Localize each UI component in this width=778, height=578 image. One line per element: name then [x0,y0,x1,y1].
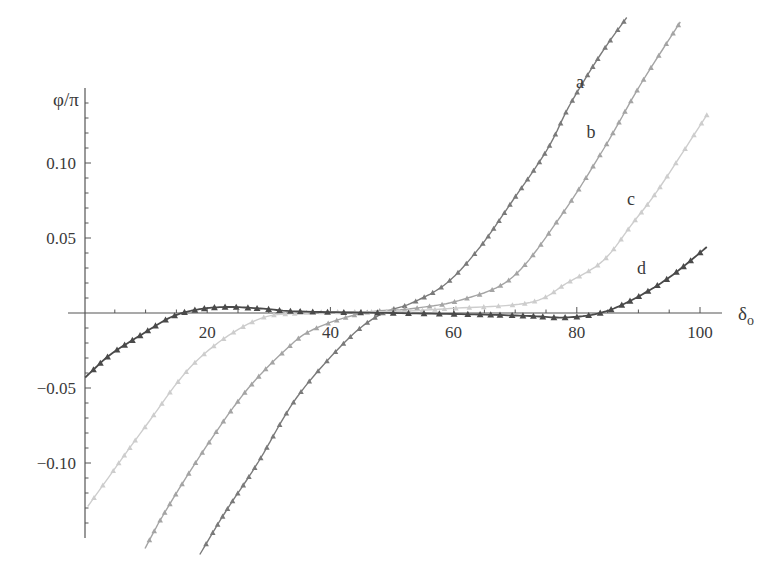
triangle-marker [430,290,436,295]
triangle-marker [151,528,157,533]
y-tick-label: 0.10 [46,154,76,173]
triangle-marker [628,98,634,103]
x-tick-label: 100 [687,323,713,342]
triangle-marker [270,433,276,438]
triangle-marker [231,329,237,334]
triangle-marker [645,288,652,294]
series-d [85,247,707,378]
curve-label-b: b [586,122,595,142]
curve-line-b [145,22,680,549]
triangle-marker [563,109,569,114]
x-axis-title-main: δ [738,303,747,324]
x-axis-title-subscript: o [747,313,754,328]
curve-label-a: a [576,72,584,92]
triangle-marker [147,537,153,542]
curve-label-c: c [627,189,635,209]
triangle-marker [704,112,710,117]
triangle-marker [586,268,592,273]
triangle-marker [498,283,504,288]
triangle-marker [264,445,270,450]
triangle-marker [372,315,378,320]
x-tick-label: 20 [199,323,216,342]
triangle-marker [152,322,159,328]
triangle-marker [547,143,553,148]
y-axis-title: φ/π [53,89,79,110]
x-tick-label: 40 [322,323,339,342]
x-axis-title: δo [738,303,754,328]
triangle-marker [622,109,628,114]
x-tick-label: 60 [445,323,462,342]
curve-line-c [88,115,707,507]
phase-chart: 20406080100−0.10−0.050.050.10 φ/π δo abc… [0,0,778,578]
triangle-marker [553,131,559,136]
curves [85,18,709,555]
y-tick-label: 0.05 [46,229,76,248]
curve-label-d: d [637,258,646,278]
y-tick-label: −0.05 [37,379,76,398]
triangle-marker [558,120,564,125]
x-tick-label: 80 [568,323,585,342]
series-b [145,22,681,549]
y-tick-label: −0.10 [37,454,76,473]
curve-line-d [85,247,707,378]
